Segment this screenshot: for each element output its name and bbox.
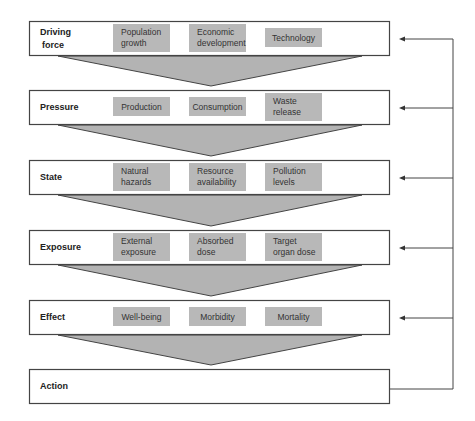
stage-label: Action: [40, 381, 68, 391]
svg-text:Morbidity: Morbidity: [200, 312, 235, 322]
stage-driving-force: DrivingforcePopulationgrowthEconomicdeve…: [30, 22, 390, 56]
svg-text:Technology: Technology: [272, 33, 316, 43]
svg-text:Well-being: Well-being: [121, 312, 161, 322]
stage-label: State: [40, 172, 62, 182]
factor-box: Populationgrowth: [113, 24, 170, 52]
factor-box: Resourceavailability: [189, 163, 246, 191]
factor-box: Consumption: [189, 97, 246, 116]
svg-text:Consumption: Consumption: [192, 102, 242, 112]
feedback-loop: [390, 37, 453, 390]
stage-effect: EffectWell-beingMorbidityMortality: [30, 301, 390, 335]
factor-box: Externalexposure: [113, 233, 170, 261]
stage-pressure: PressureProductionConsumptionWastereleas…: [30, 91, 390, 125]
arrowhead-icon: [399, 37, 405, 42]
factor-box: Morbidity: [189, 307, 246, 326]
funnel-arrow: [58, 335, 362, 365]
factor-box: Targetorgan dose: [265, 233, 322, 261]
stage-label: Effect: [40, 312, 65, 322]
stage-exposure: ExposureExternalexposureAbsorbeddoseTarg…: [30, 231, 390, 265]
factor-box: Economicdevelopment: [189, 24, 246, 52]
stage-action: Action: [30, 370, 390, 404]
stage-label: Pressure: [40, 102, 79, 112]
factor-box: Naturalhazards: [113, 163, 170, 191]
stage-box: [30, 370, 390, 404]
factor-box: Pollutionlevels: [265, 163, 322, 191]
factor-box: Production: [113, 97, 170, 116]
factor-box: Well-being: [113, 307, 170, 326]
stage-state: StateNaturalhazardsResourceavailabilityP…: [30, 161, 390, 195]
funnel-arrow: [58, 56, 362, 86]
funnel-arrow: [58, 125, 362, 156]
svg-text:Mortality: Mortality: [277, 312, 310, 322]
factor-box: Absorbeddose: [189, 233, 246, 261]
svg-text:Production: Production: [121, 102, 162, 112]
arrowhead-icon: [399, 176, 405, 181]
svg-text:Naturalhazards: Naturalhazards: [121, 166, 151, 187]
arrowhead-icon: [399, 316, 405, 321]
dpseea-diagram: DrivingforcePopulationgrowthEconomicdeve…: [0, 0, 475, 421]
svg-text:Resourceavailability: Resourceavailability: [197, 166, 237, 187]
arrowhead-icon: [399, 246, 405, 251]
factor-box: Wasterelease: [265, 93, 322, 121]
arrowhead-icon: [399, 106, 405, 111]
stage-label: Exposure: [40, 242, 81, 252]
feedback-line: [390, 39, 453, 389]
svg-text:Externalexposure: Externalexposure: [121, 236, 156, 257]
factor-box: Mortality: [265, 307, 322, 326]
factor-box: Technology: [265, 28, 322, 47]
funnel-arrow: [58, 195, 362, 226]
funnel-arrow: [58, 265, 362, 296]
